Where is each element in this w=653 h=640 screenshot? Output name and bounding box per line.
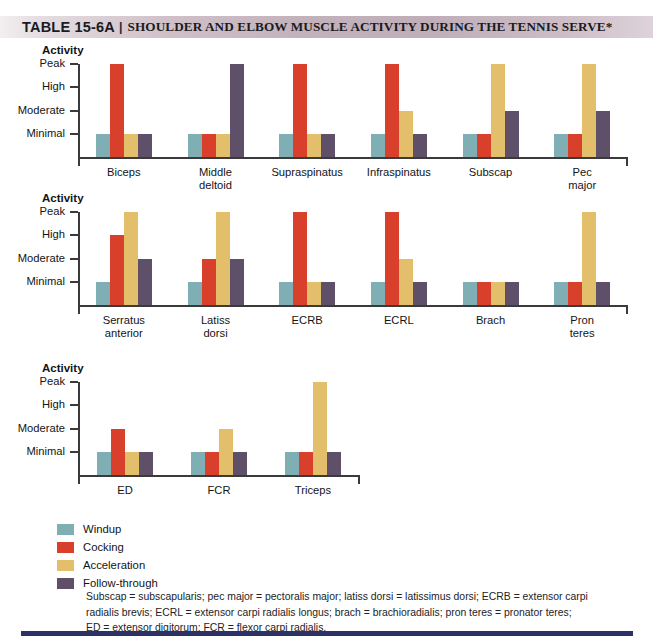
legend-color-swatch <box>57 524 74 535</box>
bar <box>138 259 152 306</box>
plot-area: PeakHighModerateMinimal <box>78 212 628 305</box>
bar <box>582 64 596 157</box>
bar <box>233 452 247 475</box>
legend-label: Acceleration <box>83 559 145 571</box>
bar <box>477 134 491 157</box>
table-header-bar: TABLE 15-6A | SHOULDER AND ELBOW MUSCLE … <box>0 16 653 38</box>
bar <box>299 452 313 475</box>
bar <box>463 282 477 305</box>
bar <box>219 429 233 476</box>
bar <box>413 282 427 305</box>
footnote-line-1: Subscap = subscapularis; pec major = pec… <box>86 589 626 605</box>
bar <box>110 235 124 305</box>
bar <box>285 452 299 475</box>
bar <box>568 134 582 157</box>
page-title: SHOULDER AND ELBOW MUSCLE ACTIVITY DURIN… <box>127 19 612 35</box>
bar <box>293 212 307 305</box>
y-axis-tick-label: High <box>0 228 65 240</box>
footnote: Subscap = subscapularis; pec major = pec… <box>86 589 626 636</box>
bar <box>463 134 477 157</box>
plot-area: PeakHighModerateMinimal <box>78 382 360 475</box>
legend-item: Windup <box>57 521 158 537</box>
bar <box>505 111 519 158</box>
y-axis-tick-label: High <box>0 80 65 92</box>
y-axis-tick <box>70 451 78 453</box>
legend-label: Follow-through <box>83 577 158 589</box>
x-axis-end-cap <box>358 475 360 484</box>
legend-label: Windup <box>83 523 121 535</box>
bar <box>110 64 124 157</box>
y-axis-tick <box>70 428 78 430</box>
footnote-line-2: radialis brevis; ECRL = extensor carpi r… <box>86 605 626 621</box>
bar <box>96 282 110 305</box>
bar <box>321 134 335 157</box>
bar <box>188 282 202 305</box>
legend-color-swatch <box>57 542 74 553</box>
bar <box>279 282 293 305</box>
table-number: TABLE 15-6A <box>22 19 115 35</box>
bar <box>191 452 205 475</box>
bar <box>124 212 138 305</box>
bar <box>399 259 413 306</box>
bar <box>124 134 138 157</box>
bar <box>313 382 327 475</box>
x-axis-line <box>78 475 360 477</box>
y-axis-tick-label: Moderate <box>0 104 65 116</box>
x-axis-group-label: Triceps <box>258 484 368 497</box>
bar <box>568 282 582 305</box>
bottom-rule <box>21 631 633 636</box>
bar <box>293 64 307 157</box>
y-axis-tick <box>70 86 78 88</box>
y-axis-tick <box>70 258 78 260</box>
chart-legend: WindupCockingAccelerationFollow-through <box>57 521 158 593</box>
y-axis-line <box>78 382 80 475</box>
bar <box>202 134 216 157</box>
y-axis-tick <box>70 133 78 135</box>
y-axis-tick <box>70 234 78 236</box>
bar <box>477 282 491 305</box>
y-axis-title: Activity <box>42 44 84 56</box>
bar <box>491 64 505 157</box>
x-axis-group-label: Pec major <box>527 166 637 192</box>
bar <box>399 111 413 158</box>
bar <box>491 282 505 305</box>
y-axis-title: Activity <box>42 192 84 204</box>
legend-color-swatch <box>57 560 74 571</box>
x-axis-line <box>78 305 628 307</box>
bar <box>202 259 216 306</box>
header-separator: | <box>115 20 128 34</box>
y-axis-tick-label: Peak <box>0 57 65 69</box>
bar <box>205 452 219 475</box>
y-axis-tick <box>70 211 78 213</box>
legend-label: Cocking <box>83 541 124 553</box>
x-axis-start-cap <box>78 305 80 314</box>
bar <box>371 134 385 157</box>
bar <box>596 282 610 305</box>
bar <box>307 282 321 305</box>
bar <box>554 134 568 157</box>
y-axis-tick-label: Moderate <box>0 422 65 434</box>
y-axis-tick <box>70 381 78 383</box>
bar <box>125 452 139 475</box>
y-axis-tick <box>70 404 78 406</box>
x-axis-end-cap <box>626 157 628 166</box>
legend-color-swatch <box>57 578 74 589</box>
x-axis-line <box>78 157 628 159</box>
y-axis-tick-label: High <box>0 398 65 410</box>
bar <box>216 212 230 305</box>
bar <box>413 134 427 157</box>
bar <box>307 134 321 157</box>
y-axis-tick <box>70 110 78 112</box>
bar <box>188 134 202 157</box>
legend-item: Acceleration <box>57 557 158 573</box>
bar <box>582 212 596 305</box>
bar <box>230 259 244 306</box>
bar <box>505 282 519 305</box>
bar <box>138 134 152 157</box>
bar <box>385 212 399 305</box>
y-axis-tick-label: Minimal <box>0 275 65 287</box>
x-axis-group-label: Pron teres <box>527 314 637 340</box>
y-axis-line <box>78 64 80 157</box>
bar <box>327 452 341 475</box>
y-axis-tick-label: Minimal <box>0 127 65 139</box>
